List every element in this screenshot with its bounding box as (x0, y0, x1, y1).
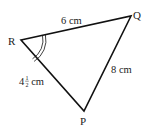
side-label-rp-unit: cm (29, 76, 44, 87)
vertex-label-p: P (80, 115, 86, 127)
side-label-rp: 4 1 2 cm (19, 75, 44, 88)
side-label-rq: 6 cm (61, 15, 82, 26)
vertex-label-r: R (8, 35, 16, 47)
angle-r-double-arc-icon (33, 35, 46, 62)
side-label-rp-whole: 4 (19, 76, 25, 87)
vertex-label-q: Q (133, 9, 141, 21)
side-label-qp: 8 cm (111, 64, 132, 75)
triangle-diagram: R Q P 6 cm 8 cm 4 1 2 cm (0, 0, 149, 131)
